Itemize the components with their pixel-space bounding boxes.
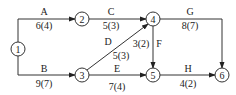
activity-g-name: G <box>186 6 193 17</box>
node-2: 2 <box>75 12 89 26</box>
activity-b-duration: 9(7) <box>36 78 53 90</box>
activity-a-name: A <box>40 6 48 17</box>
node-5-label: 5 <box>151 70 156 81</box>
activity-h-name: H <box>184 63 191 74</box>
activity-f-duration: 3(2) <box>133 38 150 50</box>
node-1-label: 1 <box>16 44 21 55</box>
activity-d-name: D <box>104 36 111 47</box>
node-6-label: 6 <box>220 70 225 81</box>
node-5: 5 <box>146 68 160 82</box>
activity-h-duration: 4(2) <box>180 78 197 90</box>
node-4-label: 4 <box>151 14 156 25</box>
node-6: 6 <box>215 68 229 82</box>
activity-g-duration: 8(7) <box>182 20 199 32</box>
activity-b-name: B <box>41 63 48 74</box>
activity-d-duration: 5(3) <box>113 50 130 62</box>
node-2-label: 2 <box>80 14 85 25</box>
activity-a-duration: 6(4) <box>36 20 53 32</box>
activity-c-name: C <box>108 6 115 17</box>
node-4: 4 <box>146 12 160 26</box>
node-1: 1 <box>11 42 25 56</box>
activity-c-duration: 5(3) <box>103 20 120 32</box>
activity-f-name: F <box>156 38 162 49</box>
node-3: 3 <box>75 68 89 82</box>
activity-e-duration: 7(4) <box>109 81 126 93</box>
network-diagram: A 6(4) B 9(7) C 5(3) D 5(3) E 7(4) 3(2) … <box>0 0 236 95</box>
node-3-label: 3 <box>80 70 85 81</box>
activity-e-name: E <box>114 63 120 74</box>
